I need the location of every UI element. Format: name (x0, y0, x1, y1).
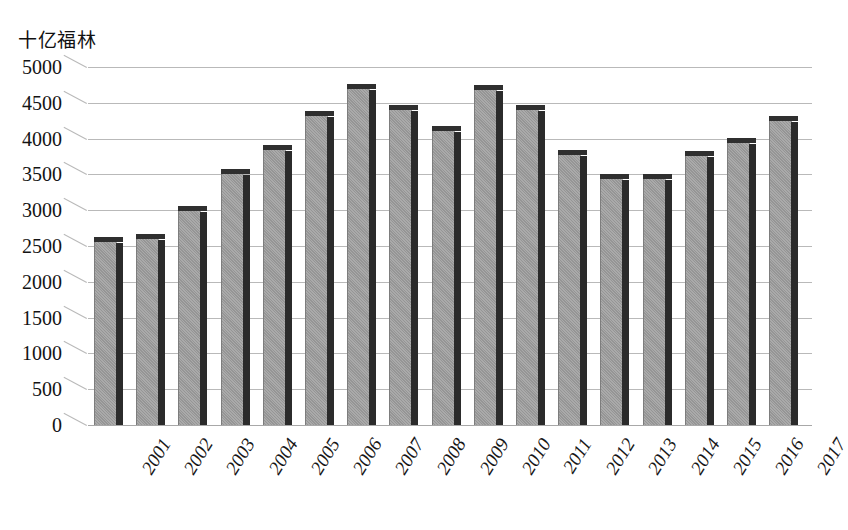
plot-area (88, 67, 812, 425)
bar-top-edge (389, 105, 418, 110)
x-tick-label: 2004 (264, 435, 300, 477)
bar (432, 129, 461, 425)
bar-face (305, 114, 328, 425)
bar-top-edge (347, 84, 376, 89)
bar (389, 108, 418, 425)
x-tick-label: 2002 (180, 435, 216, 477)
bar (474, 88, 503, 425)
bar-top-edge (685, 151, 714, 156)
bar-top-edge (94, 237, 123, 242)
y-tick-label: 1000 (2, 343, 62, 363)
bar-face (643, 177, 666, 425)
bar-face (727, 141, 750, 425)
bar (263, 148, 292, 425)
bar-side-shadow (580, 156, 587, 425)
bar-face (600, 177, 623, 425)
bar-face (221, 172, 244, 425)
x-axis-tick-labels: 2001200220032004200520062007200820092010… (88, 425, 812, 525)
bar (516, 108, 545, 425)
bar (94, 240, 123, 425)
bar-top-edge (432, 126, 461, 131)
bar-side-shadow (200, 212, 207, 425)
x-tick-label: 2017 (813, 435, 848, 477)
bar (600, 177, 629, 425)
x-tick-label: 2011 (559, 435, 595, 476)
bar-face (178, 209, 201, 425)
bar (347, 87, 376, 425)
gridline (88, 103, 812, 104)
bar-face (769, 119, 792, 425)
bar-top-edge (305, 111, 334, 116)
x-tick-label: 2007 (391, 435, 427, 477)
bar-side-shadow (622, 180, 629, 425)
bar (558, 153, 587, 425)
bar-face (474, 88, 497, 425)
axis-unit-title: 十亿福林 (18, 28, 96, 52)
x-tick-label: 2009 (475, 435, 511, 477)
x-tick-label: 2008 (433, 435, 469, 477)
x-tick-label: 2012 (602, 435, 638, 477)
bar-face (389, 108, 412, 425)
y-tick-label: 5000 (2, 57, 62, 77)
bar-top-edge (600, 174, 629, 179)
y-tick-label: 4000 (2, 129, 62, 149)
bar-top-edge (516, 105, 545, 110)
y-tick-label: 1500 (2, 308, 62, 328)
gridline (88, 67, 812, 68)
bar-side-shadow (707, 157, 714, 425)
bar (178, 209, 207, 425)
bar-side-shadow (116, 243, 123, 425)
x-tick-label: 2001 (138, 435, 174, 477)
bar-side-shadow (369, 90, 376, 425)
bar-face (685, 154, 708, 425)
bar-side-shadow (538, 111, 545, 425)
y-tick-label: 2500 (2, 236, 62, 256)
bar-top-edge (178, 206, 207, 211)
bar (305, 114, 334, 425)
bar-face (136, 237, 159, 425)
bar-face (94, 240, 117, 425)
x-tick-label: 2015 (729, 435, 765, 477)
x-tick-label: 2013 (644, 435, 680, 477)
y-axis-tick-labels: 0500100015002000250030003500400045005000 (0, 67, 62, 425)
bar-face (558, 153, 581, 425)
bar-side-shadow (243, 175, 250, 425)
bar (769, 119, 798, 425)
bar-top-edge (136, 234, 165, 239)
bar-face (432, 129, 455, 425)
x-tick-label: 2010 (518, 435, 554, 477)
y-tick-label: 3000 (2, 200, 62, 220)
bar (136, 237, 165, 425)
x-tick-label: 2006 (349, 435, 385, 477)
bar (221, 172, 250, 425)
bar-side-shadow (327, 117, 334, 425)
bar-side-shadow (665, 180, 672, 425)
bar-top-edge (643, 174, 672, 179)
bar-side-shadow (454, 132, 461, 425)
x-tick-label: 2005 (307, 435, 343, 477)
bar-top-edge (263, 145, 292, 150)
bar-side-shadow (411, 111, 418, 425)
bar-top-edge (769, 116, 798, 121)
x-tick-label: 2014 (686, 435, 722, 477)
y-tick-label: 2000 (2, 272, 62, 292)
y-tick-label: 500 (2, 379, 62, 399)
bar-side-shadow (749, 144, 756, 425)
bar (727, 141, 756, 425)
bar-top-edge (558, 150, 587, 155)
bar (685, 154, 714, 425)
x-tick-label: 2003 (222, 435, 258, 477)
y-tick-label: 0 (2, 415, 62, 435)
bar-side-shadow (496, 91, 503, 425)
bar-face (347, 87, 370, 425)
y-tick-label: 3500 (2, 164, 62, 184)
bar-face (263, 148, 286, 425)
bar-side-shadow (791, 122, 798, 425)
bar-face (516, 108, 539, 425)
y-tick-label: 4500 (2, 93, 62, 113)
bar-top-edge (221, 169, 250, 174)
bar (643, 177, 672, 425)
bar-top-edge (727, 138, 756, 143)
bar-top-edge (474, 85, 503, 90)
